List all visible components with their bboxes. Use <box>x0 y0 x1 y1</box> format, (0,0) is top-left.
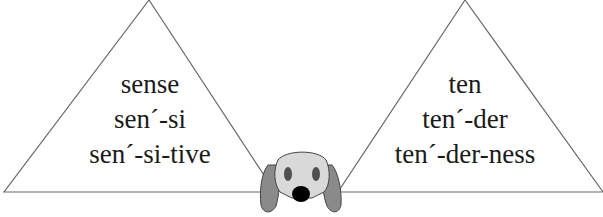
left-word-3: sen´-si-tive <box>60 137 240 172</box>
dog-right-eye <box>312 167 320 181</box>
dog-face-icon <box>260 152 341 212</box>
left-word-2: sen´-si <box>60 102 240 137</box>
dog-left-eye <box>284 167 292 181</box>
left-word-stack: sense sen´-si sen´-si-tive <box>60 67 240 172</box>
right-word-2: ten´-der <box>370 102 560 137</box>
right-word-stack: ten ten´-der ten´-der-ness <box>370 67 560 172</box>
dog-nose <box>292 186 310 202</box>
syllable-pyramids: sense sen´-si sen´-si-tive ten ten´-der … <box>0 0 603 217</box>
left-word-1: sense <box>60 67 240 102</box>
right-word-3: ten´-der-ness <box>370 137 560 172</box>
right-word-1: ten <box>370 67 560 102</box>
